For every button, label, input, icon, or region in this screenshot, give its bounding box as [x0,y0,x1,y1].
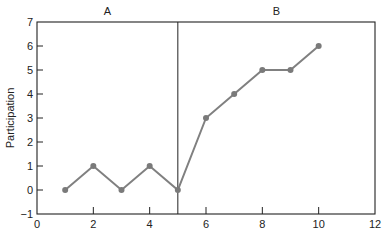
data-point [175,187,181,193]
x-tick-label: 2 [90,218,96,230]
data-series [62,43,322,193]
y-tick-label: 0 [27,184,33,196]
x-tick-label: 10 [313,218,325,230]
x-tick-label: 8 [259,218,265,230]
series-line [65,46,319,190]
data-point [231,91,237,97]
data-point [119,187,125,193]
x-tick-label: 4 [147,218,153,230]
data-point [203,115,209,121]
data-point [147,163,153,169]
phase-labels: AB [104,5,280,17]
y-axis-label: Participation [4,88,16,149]
y-tick-label: 3 [27,112,33,124]
y-tick-label: 7 [27,16,33,28]
phase-label-b: B [273,5,280,17]
y-tick-label: 2 [27,136,33,148]
y-tick-label: 1 [27,160,33,172]
y-tick-label: −1 [20,208,33,220]
data-point [90,163,96,169]
data-point [288,67,294,73]
y-tick-label: 4 [27,88,33,100]
x-tick-label: 12 [369,218,381,230]
x-tick-label: 6 [203,218,209,230]
axis-tick-labels: −101234567024681012 [20,16,381,230]
phase-label-a: A [104,5,112,17]
data-point [316,43,322,49]
data-point [62,187,68,193]
y-tick-label: 6 [27,40,33,52]
data-point [259,67,265,73]
chart: −101234567024681012 AB Participation [0,0,389,236]
y-tick-label: 5 [27,64,33,76]
x-tick-label: 0 [34,218,40,230]
